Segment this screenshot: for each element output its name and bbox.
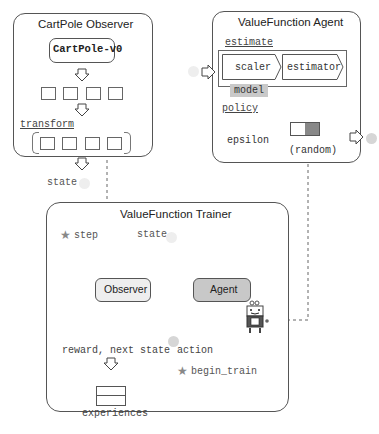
observer-output-label: state [47, 177, 77, 188]
output-dot [366, 133, 377, 144]
bracket-right [124, 132, 131, 154]
scaler-label: scaler [235, 62, 271, 73]
random-label: (random) [289, 145, 337, 156]
down-arrow-icon [74, 103, 90, 121]
estimate-label: estimate [225, 37, 273, 48]
down-arrow-icon [74, 68, 90, 86]
step-label: step [74, 230, 98, 241]
begin-train-star-icon: ★ [177, 364, 188, 378]
down-arrow-icon [103, 357, 119, 375]
estimator-label: estimator [287, 62, 341, 73]
transformed-cell [62, 137, 77, 150]
experiences-label: experiences [82, 408, 148, 419]
down-arrow-icon [74, 157, 90, 175]
input-arrow-icon [201, 64, 217, 84]
state-cell [86, 87, 101, 100]
env-label: CartPole-v0 [53, 43, 122, 55]
output-arrow-icon [349, 129, 365, 149]
transform-label: transform [20, 119, 74, 130]
state-dot [79, 178, 90, 189]
model-label: model [230, 84, 268, 97]
trainer-title: ValueFunction Trainer [120, 208, 232, 220]
epsilon-label: epsilon [227, 135, 269, 146]
transformed-cell [40, 137, 55, 150]
reward-label: reward, next state [62, 345, 170, 356]
agent-node-label: Agent [210, 283, 237, 295]
state-cell [108, 87, 123, 100]
input-dot [188, 66, 199, 77]
observer-title: CartPole Observer [38, 18, 133, 30]
bracket-left [32, 132, 39, 154]
policy-label: policy [222, 103, 258, 114]
robot-icon [238, 300, 272, 344]
action-label: action [177, 345, 213, 356]
policy-action-selected [305, 122, 320, 136]
begin-train-label: begin_train [191, 366, 257, 377]
cycle-state-label: state [137, 229, 167, 240]
agent-title: ValueFunction Agent [238, 16, 343, 28]
experience-buffer [96, 386, 126, 406]
observer-node-label: Observer [104, 283, 147, 295]
state-cell [63, 87, 78, 100]
cycle-state-dot [166, 232, 177, 243]
state-cell [41, 87, 56, 100]
transformed-cell [107, 137, 122, 150]
step-star-icon: ★ [60, 228, 71, 242]
transformed-cell [85, 137, 100, 150]
